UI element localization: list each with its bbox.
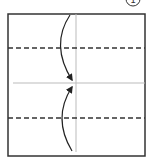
step-number: 1 (130, 0, 136, 5)
origami-diagram: 1 (0, 0, 154, 161)
step-number-badge: 1 (126, 0, 140, 6)
